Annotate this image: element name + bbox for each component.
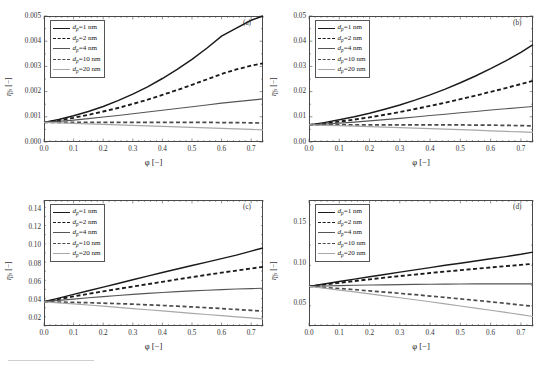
legend-label: dp=1 nm (73, 23, 98, 32)
legend-item-dp20[interactable]: dp=20 nm (53, 65, 101, 75)
legend-swatch-dp2 (318, 218, 335, 227)
legend-swatch-dp10 (53, 55, 70, 64)
legend-label: dp=1 nm (338, 23, 363, 32)
legend-label: dp=2 nm (73, 218, 98, 227)
x-tick-label: 0.4 (418, 145, 442, 153)
legend-swatch-dp4 (53, 228, 70, 237)
x-tick-label: 0.2 (91, 329, 115, 337)
x-tick-label: 0.7 (509, 329, 533, 337)
legend-swatch-dp10 (318, 239, 335, 248)
legend-swatch-dp20 (53, 249, 70, 258)
legend: dp=1 nmdp=2 nmdp=4 nmdp=10 nmdp=20 nm (315, 20, 370, 78)
x-tick-label: 0.0 (297, 145, 321, 153)
legend-item-dp4[interactable]: dp=4 nm (53, 228, 101, 238)
legend-label: dp=20 nm (73, 65, 101, 74)
series-line-dp2 (309, 81, 533, 125)
x-tick-label: 0.4 (418, 329, 442, 337)
legend-label: dp=10 nm (73, 239, 101, 248)
x-tick-label: 0.2 (91, 145, 115, 153)
legend-item-dp20[interactable]: dp=20 nm (318, 249, 366, 259)
series-line-dp20 (309, 125, 533, 133)
legend-item-dp10[interactable]: dp=10 nm (53, 238, 101, 248)
panel-label: (d) (513, 203, 521, 211)
x-axis-label: φ [−] (309, 157, 533, 167)
legend-swatch-dp1 (318, 24, 335, 33)
legend-label: dp=10 nm (338, 239, 366, 248)
legend-label: dp=4 nm (338, 44, 363, 53)
y-tick-label: 0.15 (272, 218, 306, 226)
series-line-dp20 (309, 286, 533, 316)
x-tick-label: 0.3 (388, 145, 412, 153)
legend-swatch-dp20 (53, 65, 70, 74)
legend-item-dp2[interactable]: dp=2 nm (318, 33, 366, 43)
legend-label: dp=2 nm (73, 34, 98, 43)
series-line-dp4 (309, 284, 533, 287)
legend-item-dp2[interactable]: dp=2 nm (53, 33, 101, 43)
legend-label: dp=1 nm (73, 207, 98, 216)
chart-panel-c: 0.020.040.060.080.100.120.140.00.10.20.3… (0, 184, 269, 368)
x-tick-label: 0.0 (32, 329, 56, 337)
legend-item-dp2[interactable]: dp=2 nm (318, 217, 366, 227)
y-tick-label: 0.10 (7, 241, 41, 249)
legend-item-dp20[interactable]: dp=20 nm (318, 65, 366, 75)
legend-item-dp1[interactable]: dp=1 nm (53, 23, 101, 33)
legend-item-dp1[interactable]: dp=1 nm (318, 23, 366, 33)
legend: dp=1 nmdp=2 nmdp=4 nmdp=10 nmdp=20 nm (50, 20, 105, 78)
legend-item-dp4[interactable]: dp=4 nm (318, 44, 366, 54)
legend-label: dp=4 nm (73, 44, 98, 53)
legend-item-dp20[interactable]: dp=20 nm (53, 249, 101, 259)
panel-label: (c) (243, 203, 251, 211)
legend-swatch-dp4 (318, 44, 335, 53)
y-tick-label: 0.05 (272, 12, 306, 20)
legend-item-dp4[interactable]: dp=4 nm (53, 44, 101, 54)
legend-swatch-dp1 (53, 24, 70, 33)
x-tick-label: 0.1 (62, 145, 86, 153)
legend-item-dp1[interactable]: dp=1 nm (53, 207, 101, 217)
panel-label: (b) (513, 19, 521, 27)
legend-item-dp10[interactable]: dp=10 nm (318, 238, 366, 248)
y-tick-label: 0.05 (272, 299, 306, 307)
y-tick-label: 0.003 (7, 62, 41, 70)
legend-label: dp=20 nm (73, 249, 101, 258)
legend-swatch-dp2 (318, 34, 335, 43)
x-tick-label: 0.1 (62, 329, 86, 337)
series-line-dp10 (309, 286, 533, 306)
series-line-dp4 (309, 106, 533, 124)
x-tick-label: 0.3 (388, 329, 412, 337)
x-tick-label: 0.5 (448, 329, 472, 337)
legend-label: dp=4 nm (73, 228, 98, 237)
legend-swatch-dp10 (53, 239, 70, 248)
legend-swatch-dp2 (53, 34, 70, 43)
legend-label: dp=1 nm (338, 207, 363, 216)
x-tick-label: 0.7 (239, 145, 263, 153)
x-tick-label: 0.7 (239, 329, 263, 337)
legend: dp=1 nmdp=2 nmdp=4 nmdp=10 nmdp=20 nm (315, 204, 370, 262)
y-tick-label: 0.12 (7, 223, 41, 231)
legend-item-dp2[interactable]: dp=2 nm (53, 217, 101, 227)
x-tick-label: 0.6 (479, 145, 503, 153)
y-tick-label: 0.001 (7, 112, 41, 120)
x-tick-label: 0.0 (297, 329, 321, 337)
y-tick-label: 0.14 (7, 205, 41, 213)
legend-swatch-dp1 (318, 208, 335, 217)
x-tick-label: 0.7 (509, 145, 533, 153)
legend-swatch-dp4 (318, 228, 335, 237)
x-tick-label: 0.1 (327, 145, 351, 153)
legend-item-dp10[interactable]: dp=10 nm (53, 54, 101, 64)
legend-item-dp10[interactable]: dp=10 nm (318, 54, 366, 64)
series-line-dp2 (309, 264, 533, 287)
x-axis-label: φ [−] (44, 157, 263, 167)
series-line-dp20 (44, 122, 263, 130)
legend-swatch-dp20 (318, 249, 335, 258)
legend-label: dp=2 nm (338, 218, 363, 227)
series-line-dp4 (44, 99, 263, 122)
legend-item-dp4[interactable]: dp=4 nm (318, 228, 366, 238)
legend-label: dp=4 nm (338, 228, 363, 237)
chart-panel-d: 0.050.100.150.00.10.20.30.40.50.60.7ηfs … (269, 184, 538, 368)
legend-swatch-dp20 (318, 65, 335, 74)
x-tick-label: 0.5 (180, 329, 204, 337)
legend-label: dp=20 nm (338, 65, 366, 74)
legend-item-dp1[interactable]: dp=1 nm (318, 207, 366, 217)
legend-label: dp=20 nm (338, 249, 366, 258)
x-axis-label: φ [−] (44, 341, 263, 351)
